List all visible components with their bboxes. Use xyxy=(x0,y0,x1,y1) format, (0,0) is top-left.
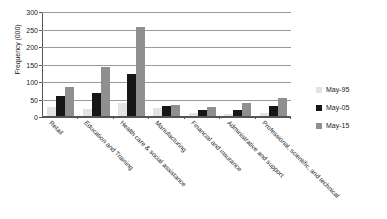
bar-group xyxy=(78,12,113,116)
bar-group xyxy=(185,12,220,116)
legend-label: May-95 xyxy=(326,86,349,93)
bar xyxy=(83,109,92,116)
bar xyxy=(118,103,127,116)
x-tick-label: Health care & social assistance xyxy=(119,119,188,188)
y-tick-mark xyxy=(39,100,42,101)
x-tick-label: Professional, scientific, and technical xyxy=(261,119,341,199)
legend-item: May-05 xyxy=(316,104,349,111)
x-tick-label: Administrative and support xyxy=(226,119,285,178)
y-tick-mark xyxy=(39,65,42,66)
legend-label: May-05 xyxy=(326,104,349,111)
bar xyxy=(278,98,287,116)
bar xyxy=(65,87,74,116)
legend: May-95May-05May-15 xyxy=(316,86,349,129)
bar-chart: Frequency (000) 050100150200250300 Retai… xyxy=(0,0,387,219)
y-tick-label: 250 xyxy=(26,26,38,33)
bar xyxy=(207,107,216,116)
y-axis-title: Frequency (000) xyxy=(14,2,21,98)
legend-swatch-icon xyxy=(316,87,322,93)
y-tick-label: 300 xyxy=(26,9,38,16)
bar xyxy=(269,106,278,117)
bar xyxy=(153,108,162,116)
bar xyxy=(198,110,207,116)
y-tick-label: 0 xyxy=(34,114,38,121)
bar-group xyxy=(256,12,291,116)
y-tick-mark xyxy=(39,117,42,118)
bar-groups xyxy=(43,12,291,116)
y-tick-mark xyxy=(39,30,42,31)
bar-group xyxy=(220,12,255,116)
bar xyxy=(56,96,65,116)
legend-item: May-15 xyxy=(316,122,349,129)
y-tick-mark xyxy=(39,47,42,48)
plot-area: 050100150200250300 xyxy=(42,12,291,117)
bar xyxy=(136,27,145,116)
y-tick-label: 100 xyxy=(26,79,38,86)
x-axis-category-labels: RetailEducation and TrainingHealth care … xyxy=(42,119,291,219)
bar xyxy=(171,105,180,116)
y-tick-mark xyxy=(39,82,42,83)
bar-group xyxy=(43,12,78,116)
y-tick-label: 200 xyxy=(26,44,38,51)
bar xyxy=(92,93,101,116)
bar-group xyxy=(114,12,149,116)
x-tick-label: Retail xyxy=(48,119,65,136)
x-tick-label: Manufacturing xyxy=(154,119,188,153)
y-tick-mark xyxy=(39,12,42,13)
legend-item: May-95 xyxy=(316,86,349,93)
bar-group xyxy=(149,12,184,116)
y-tick-label: 50 xyxy=(30,96,38,103)
y-tick-label: 150 xyxy=(26,61,38,68)
bar xyxy=(162,106,171,117)
bar xyxy=(127,74,136,116)
bar xyxy=(260,113,269,116)
bar xyxy=(189,113,198,116)
legend-label: May-15 xyxy=(326,122,349,129)
legend-swatch-icon xyxy=(316,105,322,111)
bar xyxy=(101,67,110,116)
bar xyxy=(242,103,251,116)
bar xyxy=(224,114,233,116)
bar xyxy=(47,107,56,116)
legend-swatch-icon xyxy=(316,123,322,129)
bar xyxy=(233,110,242,116)
